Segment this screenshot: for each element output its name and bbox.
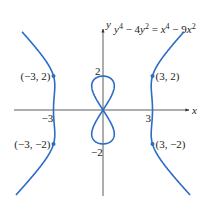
point-marker <box>151 74 155 78</box>
x-tick-label: 3 <box>146 112 152 124</box>
x-axis-label: x <box>191 104 197 116</box>
y-tick-label: 2 <box>95 65 101 77</box>
point-label: (−3, 2) <box>20 70 50 83</box>
point-marker <box>151 142 155 146</box>
y-tick-label: −2 <box>91 146 103 158</box>
point-marker <box>52 142 56 146</box>
labeled-points: (−3, 2)(3, 2)(−3, −2)(3, −2) <box>14 70 186 151</box>
tick-labels: −332−2 <box>42 65 152 158</box>
right-branch <box>151 32 190 195</box>
point-label: (3, −2) <box>156 138 186 151</box>
y-axis-label: y <box>105 18 111 30</box>
point-label: (−3, −2) <box>14 138 51 151</box>
implicit-curve-plot: x y y4 − 4y2 = x4 − 9x2 −332−2 (−3, 2)(3… <box>0 0 207 198</box>
point-marker <box>52 74 56 78</box>
point-label: (3, 2) <box>156 70 180 83</box>
x-tick-label: −3 <box>42 112 54 124</box>
